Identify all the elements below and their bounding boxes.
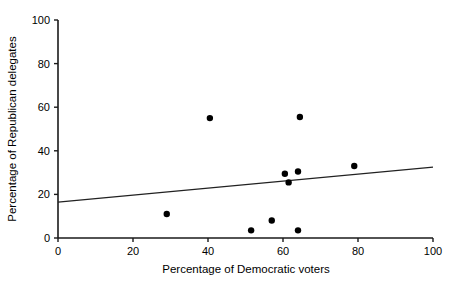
x-axis-title: Percentage of Democratic voters — [162, 263, 330, 275]
x-tick-label: 60 — [277, 245, 289, 257]
x-tick-label: 0 — [55, 245, 61, 257]
y-tick-label: 40 — [38, 145, 50, 157]
plot-canvas: 020406080100 020406080100 Percentage of … — [0, 0, 451, 287]
data-points-group — [164, 114, 358, 234]
y-axis-title: Percentage of Republican delegates — [6, 36, 18, 222]
data-point — [295, 227, 301, 233]
scatter-plot-figure: 020406080100 020406080100 Percentage of … — [0, 0, 451, 287]
x-tick-label: 80 — [352, 245, 364, 257]
data-point — [351, 163, 357, 169]
x-tick-label: 40 — [202, 245, 214, 257]
data-point — [269, 217, 275, 223]
y-tick-label: 80 — [38, 58, 50, 70]
data-point — [164, 211, 170, 217]
data-point — [207, 115, 213, 121]
data-point — [295, 168, 301, 174]
x-tick-label: 20 — [127, 245, 139, 257]
data-point — [297, 114, 303, 120]
trend-line — [58, 167, 433, 202]
y-axis-tick-labels: 020406080100 — [32, 14, 50, 244]
x-tick-label: 100 — [424, 245, 442, 257]
y-tick-label: 100 — [32, 14, 50, 26]
y-tick-label: 0 — [44, 232, 50, 244]
x-axis-tick-labels: 020406080100 — [55, 245, 442, 257]
data-point — [285, 179, 291, 185]
y-tick-label: 60 — [38, 101, 50, 113]
data-point — [248, 227, 254, 233]
y-tick-label: 20 — [38, 188, 50, 200]
data-point — [282, 170, 288, 176]
